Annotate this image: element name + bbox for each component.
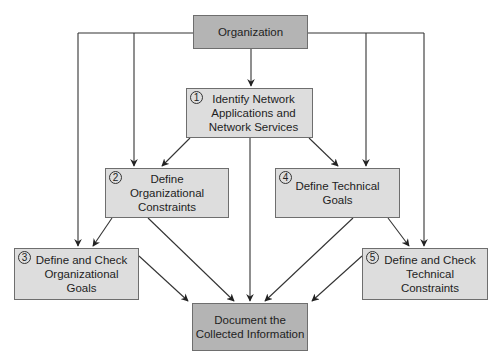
edge-identify-techgoals <box>309 138 338 166</box>
node-organization: Organization <box>193 15 308 49</box>
step-number-badge: 2 <box>109 171 122 184</box>
node-org-goals: 3 Define and Check Organizational Goals <box>14 248 139 300</box>
edge-identify-orgconstraints <box>162 138 190 166</box>
node-org-constraints: 2 Define Organizational Constraints <box>105 168 229 218</box>
node-document: Document the Collected Information <box>192 303 308 351</box>
edge-orgconstraints-document <box>148 218 234 301</box>
edge-techconstraints-document <box>312 256 362 301</box>
node-label: Define Organizational Constraints <box>130 172 204 214</box>
step-number-badge: 5 <box>366 251 379 264</box>
flow-diagram: Organization 1 Identify Network Applicat… <box>0 0 502 356</box>
node-label: Define Technical Goals <box>295 179 379 207</box>
node-identify-applications: 1 Identify Network Applications and Netw… <box>186 88 313 138</box>
step-number-badge: 4 <box>279 171 292 184</box>
edge-orgconstraints-orggoals <box>93 218 112 246</box>
node-label: Define and Check Technical Constraints <box>374 253 475 295</box>
node-label: Organization <box>218 25 283 39</box>
node-tech-constraints: 5 Define and Check Technical Constraints <box>362 248 488 300</box>
edge-orggoals-document <box>139 256 188 301</box>
step-number-badge: 3 <box>18 251 31 264</box>
node-label: Document the Collected Information <box>196 313 305 341</box>
step-number-badge: 1 <box>190 91 203 104</box>
edge-techgoals-document <box>265 218 353 301</box>
edge-techgoals-techconstraints <box>388 218 409 246</box>
node-label: Define and Check Organizational Goals <box>26 253 127 295</box>
node-label: Identify Network Applications and Networ… <box>201 92 298 134</box>
node-tech-goals: 4 Define Technical Goals <box>275 168 400 218</box>
